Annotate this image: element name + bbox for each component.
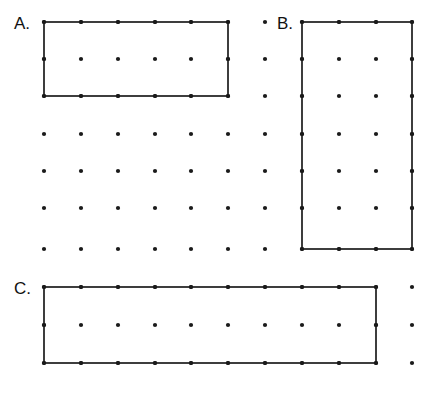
grid-dot xyxy=(153,323,157,327)
grid-dot-on-outline xyxy=(410,169,414,173)
grid-dot xyxy=(79,132,83,136)
grid-dot-on-outline xyxy=(410,247,414,251)
grid-dot-on-outline xyxy=(79,285,83,289)
grid-dot xyxy=(263,20,267,24)
grid-dot xyxy=(226,247,230,251)
grid-dot xyxy=(263,57,267,61)
grid-dot-on-outline xyxy=(410,94,414,98)
grid-dot xyxy=(153,206,157,210)
grid-dot xyxy=(189,169,193,173)
grid-dot xyxy=(189,323,193,327)
grid-dot xyxy=(263,323,267,327)
grid-dot-on-outline xyxy=(79,94,83,98)
rectangle-outlines xyxy=(42,20,414,365)
grid-dot xyxy=(42,132,46,136)
grid-dot-on-outline xyxy=(42,20,46,24)
grid-dot xyxy=(116,169,120,173)
grid-dot xyxy=(337,132,341,136)
grid-dot xyxy=(374,94,378,98)
grid-dot xyxy=(189,206,193,210)
grid-dot-on-outline xyxy=(153,20,157,24)
grid-dot xyxy=(263,247,267,251)
rect-b-outline xyxy=(302,22,412,249)
grid-dot xyxy=(337,323,341,327)
grid-dot-on-outline xyxy=(116,20,120,24)
grid-dot-on-outline xyxy=(300,57,304,61)
grid-dot-on-outline xyxy=(300,20,304,24)
grid-dot xyxy=(374,169,378,173)
grid-dot xyxy=(79,169,83,173)
grid-dot-on-outline xyxy=(42,361,46,365)
grid-dot-on-outline xyxy=(153,94,157,98)
grid-dot-on-outline xyxy=(337,361,341,365)
grid-dot-on-outline xyxy=(300,285,304,289)
grid-dot xyxy=(116,206,120,210)
grid-dot xyxy=(79,323,83,327)
grid-dot-on-outline xyxy=(337,20,341,24)
grid-dot-on-outline xyxy=(374,247,378,251)
rect-a-outline xyxy=(44,22,228,96)
grid-dot xyxy=(189,132,193,136)
geoboard-figure: A. B. C. xyxy=(0,0,437,393)
grid-dot xyxy=(79,247,83,251)
grid-dot-on-outline xyxy=(153,285,157,289)
grid-dot xyxy=(153,247,157,251)
shape-label-b: B. xyxy=(277,15,293,32)
grid-dot-on-outline xyxy=(300,169,304,173)
grid-dot-on-outline xyxy=(300,361,304,365)
grid-dot-on-outline xyxy=(189,361,193,365)
grid-dot xyxy=(116,132,120,136)
grid-dot xyxy=(116,57,120,61)
grid-dot-on-outline xyxy=(226,20,230,24)
grid-dot xyxy=(337,57,341,61)
grid-dot xyxy=(226,206,230,210)
grid-dot-on-outline xyxy=(79,361,83,365)
grid-dot-on-outline xyxy=(263,285,267,289)
grid-dot xyxy=(42,169,46,173)
grid-dot-on-outline xyxy=(410,132,414,136)
grid-dot xyxy=(116,247,120,251)
grid-dot xyxy=(410,323,414,327)
grid-dot xyxy=(226,132,230,136)
grid-dot xyxy=(263,132,267,136)
grid-dot xyxy=(300,323,304,327)
grid-dot-on-outline xyxy=(374,20,378,24)
grid-dot-on-outline xyxy=(42,323,46,327)
grid-dot-on-outline xyxy=(337,247,341,251)
grid-dot-on-outline xyxy=(300,132,304,136)
grid-dot-on-outline xyxy=(189,285,193,289)
grid-dot xyxy=(263,206,267,210)
grid-dot-on-outline xyxy=(300,206,304,210)
shape-label-a: A. xyxy=(14,15,30,32)
grid-dot xyxy=(374,132,378,136)
grid-dot-on-outline xyxy=(374,323,378,327)
grid-dot-on-outline xyxy=(374,285,378,289)
grid-dot xyxy=(410,285,414,289)
grid-dot-on-outline xyxy=(153,361,157,365)
grid-dot-on-outline xyxy=(116,94,120,98)
grid-dot-on-outline xyxy=(226,285,230,289)
grid-dot-on-outline xyxy=(410,206,414,210)
grid-dot-on-outline xyxy=(42,285,46,289)
grid-dot xyxy=(263,94,267,98)
grid-dot-on-outline xyxy=(116,285,120,289)
grid-dot-on-outline xyxy=(337,285,341,289)
grid-dot xyxy=(337,94,341,98)
grid-dot xyxy=(263,169,267,173)
grid-dot-on-outline xyxy=(42,94,46,98)
grid-dot-on-outline xyxy=(410,57,414,61)
grid-dot xyxy=(337,206,341,210)
grid-dot-on-outline xyxy=(116,361,120,365)
grid-dot-on-outline xyxy=(263,361,267,365)
grid-dot-on-outline xyxy=(226,57,230,61)
shape-label-c: C. xyxy=(14,280,31,297)
grid-dot xyxy=(410,361,414,365)
grid-dot xyxy=(189,57,193,61)
grid-dot xyxy=(374,206,378,210)
grid-dot xyxy=(153,132,157,136)
figure-canvas xyxy=(0,0,437,393)
grid-dot xyxy=(79,57,83,61)
grid-dot xyxy=(153,57,157,61)
grid-dot xyxy=(226,323,230,327)
rect-c-outline xyxy=(44,287,376,363)
